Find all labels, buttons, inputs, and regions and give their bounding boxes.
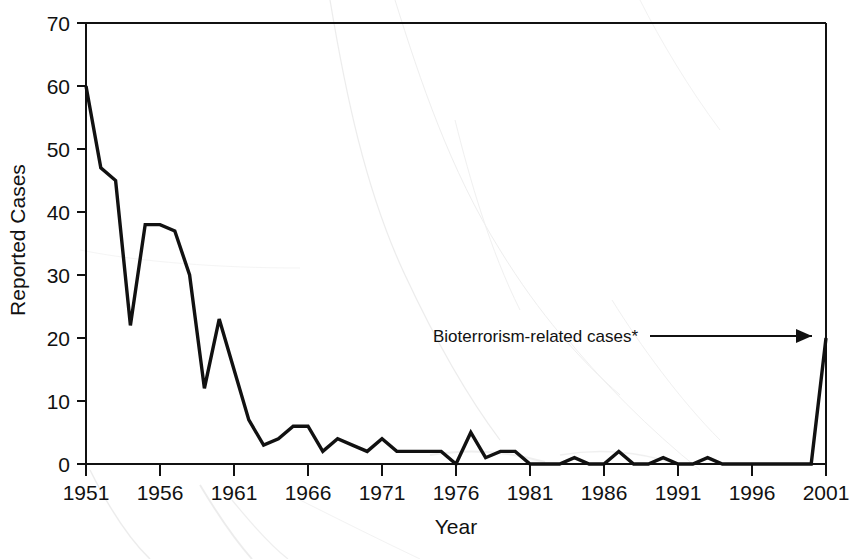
y-tick-label: 10 [47,390,70,413]
x-tick-label: 1961 [211,481,258,504]
scan-artifacts [80,0,720,559]
y-tick-label: 50 [47,138,70,161]
y-tick-label: 30 [47,264,70,287]
x-tick-label: 2001 [803,481,850,504]
line-chart: 70 60 50 40 30 20 10 0 Reported Cases [0,0,861,559]
x-tick-label: 1981 [507,481,554,504]
annotation-arrow [650,329,812,343]
x-tick-label: 1951 [63,481,110,504]
x-tick-label: 1971 [359,481,406,504]
x-axis-tick-labels: 1951 1956 1961 1966 1971 1976 1981 1986 … [63,481,850,504]
x-tick-label: 1956 [137,481,184,504]
x-tick-label: 1986 [581,481,628,504]
y-tick-label: 0 [58,453,70,476]
data-series-line [86,86,826,464]
y-axis-tick-labels: 70 60 50 40 30 20 10 0 [47,12,70,476]
y-tick-label: 40 [47,201,70,224]
bioterrorism-annotation-label: Bioterrorism-related cases* [433,327,638,346]
x-tick-label: 1991 [655,481,702,504]
y-tick-label: 20 [47,327,70,350]
x-tick-label: 1976 [433,481,480,504]
x-axis-title: Year [435,515,477,538]
x-tick-label: 1966 [285,481,332,504]
y-axis-title: Reported Cases [6,164,29,316]
chart-figure: 70 60 50 40 30 20 10 0 Reported Cases [0,0,861,559]
x-tick-label: 1996 [729,481,776,504]
y-tick-label: 70 [47,12,70,35]
y-axis-ticks [77,23,86,464]
plot-frame [86,23,826,464]
y-tick-label: 60 [47,75,70,98]
